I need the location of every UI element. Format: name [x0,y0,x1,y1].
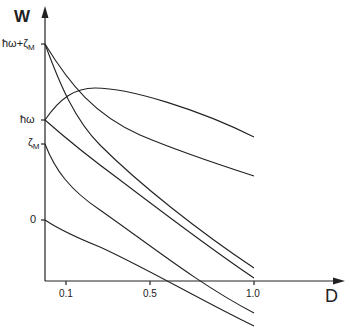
y-tick-zeta: ζM [28,136,40,151]
curve-from-zero [45,220,254,326]
x-tick-0-1: 0.1 [59,288,73,299]
y-tick-hw-plus-zeta: ħω+ζM [2,37,35,52]
curve-rising-from-hw [45,88,254,137]
curve-from-hw [45,120,254,278]
curve-convex-from-hw-plus-zeta [45,44,254,176]
x-tick-0-5: 0.5 [143,288,157,299]
curve-steep-from-hw-plus-zeta [45,44,254,268]
y-axis-arrow-icon [42,6,49,18]
chart-plot [0,0,350,335]
x-tick-1-0: 1.0 [246,288,260,299]
y-axis-title: W [14,7,30,27]
x-axis-arrow-icon [333,278,345,285]
x-axis-title: D [325,286,338,307]
y-tick-hw: ħω [20,113,35,125]
y-tick-zero: 0 [30,213,36,225]
